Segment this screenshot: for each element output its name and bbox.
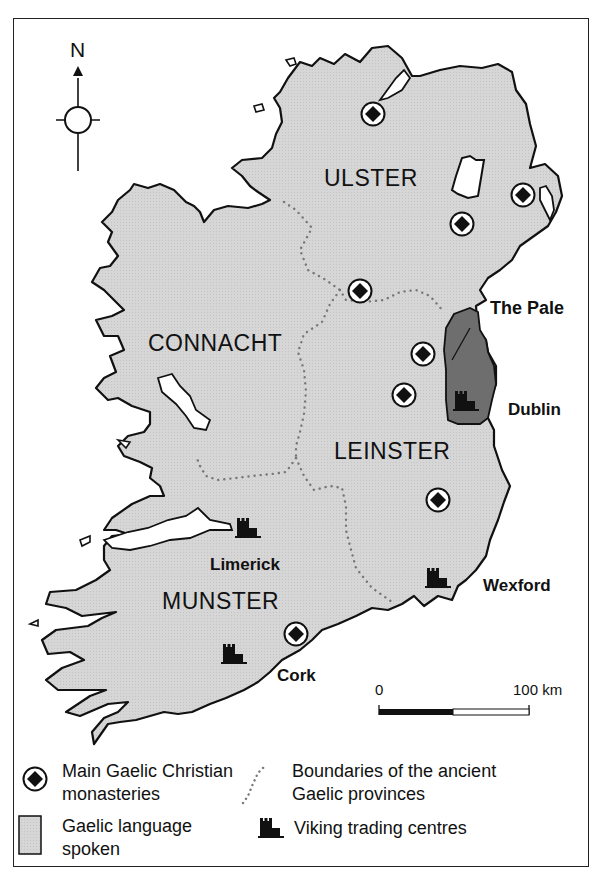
legend-monastery-icon xyxy=(24,768,47,791)
legend-monasteries-label: Main Gaelic Christian monasteries xyxy=(62,760,233,806)
scale-bar xyxy=(379,705,529,715)
legend-boundary-icon xyxy=(243,766,265,803)
province-label-leinster: LEINSTER xyxy=(334,438,450,465)
province-label-munster: MUNSTER xyxy=(162,588,279,615)
monastery-icon xyxy=(362,103,385,126)
ireland-map xyxy=(0,0,602,889)
legend-viking-label: Viking trading centres xyxy=(294,817,467,840)
monastery-icon xyxy=(451,213,474,236)
region-label-the-pale: The Pale xyxy=(490,298,564,319)
legend-gaelic-swatch xyxy=(19,816,41,854)
monastery-icon xyxy=(393,384,416,407)
scale-start-label: 0 xyxy=(375,681,383,698)
legend-castle-icon xyxy=(258,818,284,838)
monastery-icon xyxy=(427,489,450,512)
island xyxy=(286,58,296,66)
city-label-limerick: Limerick xyxy=(210,555,280,575)
monastery-icon xyxy=(412,343,435,366)
scale-end-label: 100 km xyxy=(513,681,562,698)
north-arrow-icon xyxy=(56,66,100,171)
province-label-connacht: CONNACHT xyxy=(148,330,282,357)
city-label-wexford: Wexford xyxy=(483,576,551,596)
city-label-dublin: Dublin xyxy=(508,400,561,420)
monastery-icon xyxy=(285,623,308,646)
legend-gaelic-label: Gaelic language spoken xyxy=(62,815,192,861)
monastery-icon xyxy=(512,184,535,207)
island xyxy=(30,620,38,626)
province-label-ulster: ULSTER xyxy=(324,165,418,192)
city-label-cork: Cork xyxy=(277,666,316,686)
monastery-icon xyxy=(349,280,372,303)
legend-boundaries-label: Boundaries of the ancient Gaelic provinc… xyxy=(292,760,496,806)
compass-north-label: N xyxy=(70,38,85,62)
island xyxy=(254,104,264,112)
island xyxy=(80,536,90,546)
